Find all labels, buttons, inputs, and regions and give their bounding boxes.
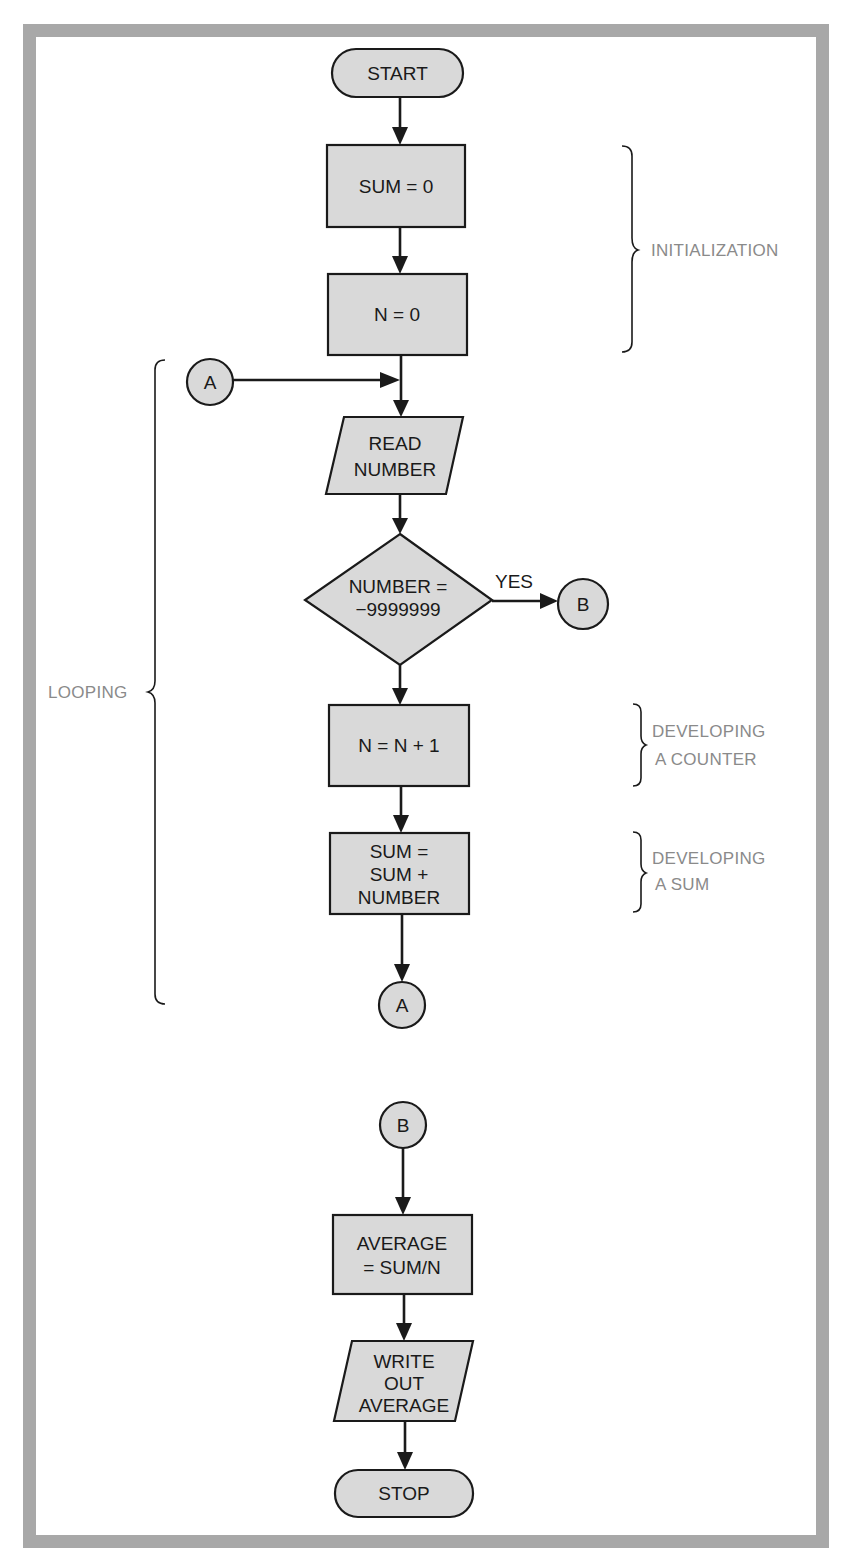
- svg-text:A: A: [396, 995, 409, 1016]
- connector-b-bottom: B: [380, 1102, 426, 1148]
- svg-text:B: B: [577, 594, 590, 615]
- process-n-init: N = 0: [328, 274, 467, 355]
- svg-text:START: START: [367, 63, 428, 84]
- yes-label: YES: [495, 571, 533, 592]
- process-sum-update: SUM = SUM + NUMBER: [330, 833, 469, 914]
- stop-terminal: STOP: [335, 1470, 473, 1517]
- initialization-label: INITIALIZATION: [651, 241, 779, 260]
- process-average: AVERAGE = SUM/N: [333, 1215, 472, 1294]
- svg-text:SUM +: SUM +: [370, 864, 429, 885]
- svg-text:SUM = 0: SUM = 0: [359, 176, 433, 197]
- svg-text:READ: READ: [369, 433, 422, 454]
- arrowhead-icon: [393, 815, 409, 833]
- svg-text:OUT: OUT: [384, 1373, 425, 1394]
- output-write-average: WRITE OUT AVERAGE: [334, 1341, 473, 1421]
- flowchart: START SUM = 0 N = 0 A READ NUMBER NUMBER…: [0, 0, 854, 1556]
- svg-text:AVERAGE: AVERAGE: [359, 1395, 449, 1416]
- process-sum-init: SUM = 0: [327, 145, 465, 227]
- svg-text:NUMBER =: NUMBER =: [349, 576, 448, 597]
- svg-text:NUMBER: NUMBER: [358, 887, 440, 908]
- sum-brace-icon: [633, 832, 646, 912]
- arrowhead-icon: [393, 400, 409, 417]
- arrowhead-icon: [396, 1323, 412, 1341]
- svg-text:NUMBER: NUMBER: [354, 459, 436, 480]
- arrowhead-icon: [397, 1452, 413, 1470]
- counter-label-line1: DEVELOPING: [652, 722, 766, 741]
- initialization-brace-icon: [622, 146, 638, 352]
- process-counter: N = N + 1: [329, 705, 469, 786]
- sum-label-line1: DEVELOPING: [652, 849, 766, 868]
- arrowhead-icon: [540, 593, 558, 609]
- connector-a-top: A: [187, 359, 233, 405]
- svg-text:= SUM/N: = SUM/N: [363, 1257, 441, 1278]
- counter-brace-icon: [633, 704, 646, 786]
- svg-text:SUM =: SUM =: [370, 841, 429, 862]
- svg-text:AVERAGE: AVERAGE: [357, 1233, 447, 1254]
- svg-text:−9999999: −9999999: [355, 599, 440, 620]
- arrowhead-icon: [392, 518, 408, 534]
- arrowhead-icon: [394, 964, 410, 982]
- start-terminal: START: [332, 49, 463, 97]
- arrowhead-icon: [392, 256, 408, 274]
- arrowhead-icon: [380, 372, 400, 388]
- connector-b-right: B: [558, 579, 608, 629]
- arrowhead-icon: [395, 1197, 411, 1215]
- connector-a-bottom: A: [379, 982, 425, 1028]
- arrowhead-icon: [392, 127, 408, 145]
- arrowhead-icon: [392, 688, 408, 705]
- sum-label-line2: A SUM: [655, 875, 709, 894]
- svg-text:WRITE: WRITE: [373, 1351, 434, 1372]
- looping-label: LOOPING: [48, 683, 128, 702]
- counter-label-line2: A COUNTER: [655, 750, 757, 769]
- decision-number-sentinel: NUMBER = −9999999: [305, 534, 492, 665]
- svg-text:A: A: [204, 372, 217, 393]
- looping-brace-icon: [148, 360, 165, 1004]
- input-read-number: READ NUMBER: [326, 417, 463, 494]
- svg-text:B: B: [397, 1115, 410, 1136]
- svg-text:STOP: STOP: [378, 1483, 429, 1504]
- svg-text:N = 0: N = 0: [374, 304, 420, 325]
- svg-text:N = N + 1: N = N + 1: [358, 735, 439, 756]
